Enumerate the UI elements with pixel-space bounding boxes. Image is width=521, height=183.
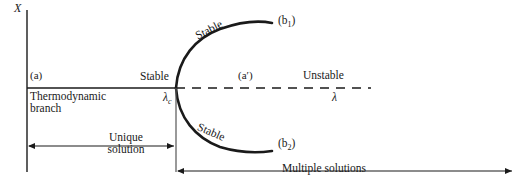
point-label-b1-close: ) bbox=[292, 14, 296, 26]
upper-bifurcation-branch-curve bbox=[176, 22, 272, 88]
lambda-axis-label: λ bbox=[332, 91, 337, 103]
unique-solution-label-line1: Unique bbox=[81, 131, 171, 143]
thermodynamic-branch-label: Thermodynamic branch bbox=[30, 90, 106, 115]
point-label-b2-open: (b bbox=[278, 137, 288, 149]
point-label-b1: (b1) bbox=[278, 14, 295, 30]
thermodynamic-branch-label-line2: branch bbox=[30, 102, 106, 114]
unique-solution-label-line2: solution bbox=[81, 143, 171, 155]
lower-bifurcation-branch-curve bbox=[176, 88, 272, 152]
point-label-a-prime: (a′) bbox=[238, 70, 253, 82]
point-label-b1-open: (b bbox=[278, 14, 288, 26]
y-axis-label: X bbox=[14, 2, 21, 15]
point-label-b2-close: ) bbox=[292, 137, 296, 149]
thermodynamic-branch-label-line1: Thermodynamic bbox=[30, 90, 106, 102]
critical-lambda-label: λc bbox=[163, 91, 172, 107]
stability-label-thermodynamic: Stable bbox=[140, 70, 169, 82]
critical-lambda-subscript: c bbox=[168, 97, 172, 106]
multiple-solutions-region-label: Multiple solutions bbox=[282, 162, 366, 174]
point-label-b2: (b2) bbox=[278, 137, 295, 153]
unique-solution-region-label: Unique solution bbox=[81, 131, 171, 156]
bifurcation-diagram-figure: X (a) Stable (a′) Unstable Thermodynamic… bbox=[0, 0, 521, 183]
stability-label-unstable: Unstable bbox=[303, 69, 344, 81]
point-label-a: (a) bbox=[30, 70, 42, 82]
